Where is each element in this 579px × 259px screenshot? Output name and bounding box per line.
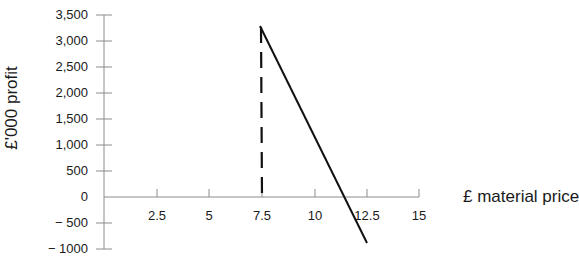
- x-tick-label: 15: [399, 208, 439, 223]
- y-tick-label: − 1000: [18, 241, 88, 256]
- x-tick-label: 12.5: [347, 208, 387, 223]
- y-axis-label: £'000 profit: [2, 66, 22, 150]
- y-tick-label: 1,500: [18, 111, 88, 126]
- y-tick-label: 1,000: [18, 137, 88, 152]
- y-tick-label: 3,000: [18, 33, 88, 48]
- y-tick-label: 500: [18, 163, 88, 178]
- x-tick-label: 5: [189, 208, 229, 223]
- y-tick-label: 3,500: [18, 7, 88, 22]
- dashed-series-line: [261, 27, 262, 199]
- y-tick-label: 0: [18, 189, 88, 204]
- y-tick-label: − 500: [18, 215, 88, 230]
- x-ticks: [157, 189, 419, 197]
- x-axis-label: £ material price: [463, 187, 579, 207]
- x-tick-label: 7.5: [242, 208, 282, 223]
- y-tick-label: 2,500: [18, 59, 88, 74]
- y-tick-label: 2,000: [18, 85, 88, 100]
- x-tick-label: 2.5: [137, 208, 177, 223]
- x-tick-label: 10: [295, 208, 335, 223]
